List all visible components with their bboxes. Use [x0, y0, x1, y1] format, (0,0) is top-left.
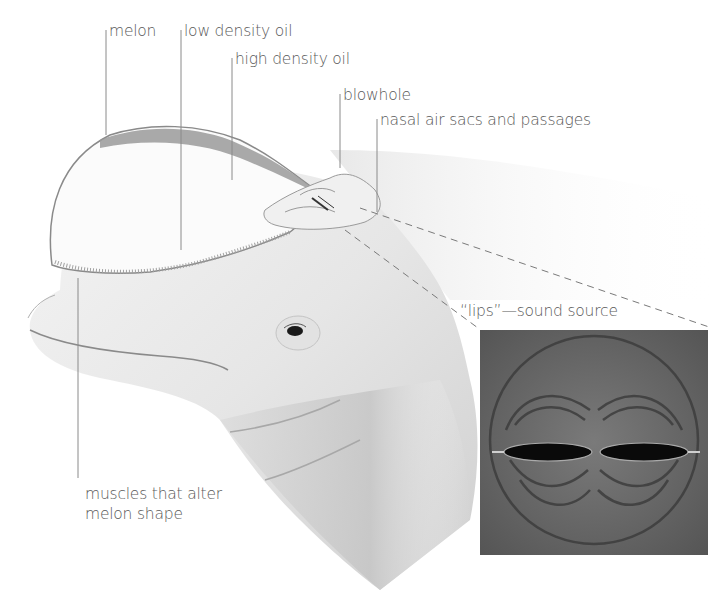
lips-sound-source-inset — [480, 330, 708, 555]
label-muscles-melon-shape: muscles that alter melon shape — [85, 484, 222, 524]
label-high-density-oil: high density oil — [235, 50, 350, 68]
label-melon: melon — [109, 22, 156, 40]
label-lips-sound-source: “lips”—sound source — [460, 302, 618, 320]
label-nasal-air-sacs: nasal air sacs and passages — [380, 111, 591, 129]
eye — [276, 316, 320, 350]
label-blowhole: blowhole — [343, 86, 411, 104]
label-low-density-oil: low density oil — [184, 22, 292, 40]
